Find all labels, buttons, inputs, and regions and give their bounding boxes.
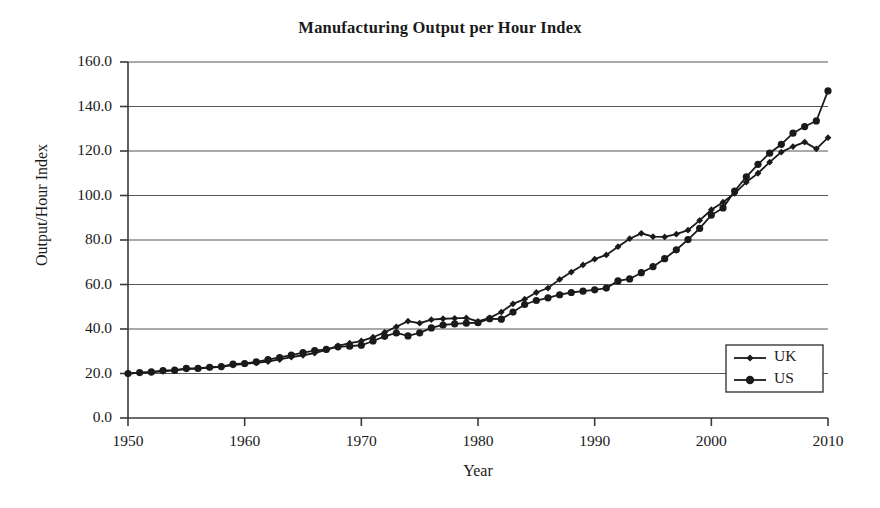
x-tick-label: 2000: [676, 432, 746, 450]
legend-label-uk: UK: [774, 347, 796, 365]
data-point-us: [124, 370, 131, 377]
data-point-us: [416, 329, 423, 336]
data-point-us: [824, 87, 831, 94]
data-point-us: [206, 364, 213, 371]
data-point-us: [521, 301, 528, 308]
data-point-us: [404, 332, 411, 339]
data-point-us: [556, 291, 563, 298]
data-point-us: [498, 316, 505, 323]
x-tick-label: 1990: [560, 432, 630, 450]
y-tick-label: 100.0: [50, 186, 112, 204]
y-tick-label: 140.0: [50, 97, 112, 115]
data-point-us: [614, 277, 621, 284]
data-point-us: [579, 288, 586, 295]
data-point-us: [789, 130, 796, 137]
data-point-us: [229, 361, 236, 368]
data-point-us: [463, 320, 470, 327]
data-point-us: [428, 324, 435, 331]
data-point-us: [241, 360, 248, 367]
data-point-us: [136, 369, 143, 376]
data-point-us: [194, 365, 201, 372]
data-point-us: [638, 269, 645, 276]
data-point-us: [696, 225, 703, 232]
data-point-us: [486, 315, 493, 322]
data-point-uk: [428, 316, 435, 323]
data-point-us: [171, 367, 178, 374]
data-point-uk: [661, 233, 668, 240]
data-point-uk: [405, 318, 412, 325]
data-point-uk: [591, 256, 598, 263]
data-point-us: [743, 173, 750, 180]
data-point-us: [253, 358, 260, 365]
x-tick-label: 2010: [793, 432, 863, 450]
x-tick-label: 1980: [443, 432, 513, 450]
data-point-us: [661, 255, 668, 262]
data-point-us: [533, 297, 540, 304]
data-point-us: [801, 123, 808, 130]
data-point-us: [299, 349, 306, 356]
data-point-us: [626, 275, 633, 282]
y-tick-label: 40.0: [50, 319, 112, 337]
data-point-us: [288, 351, 295, 358]
data-point-us: [358, 342, 365, 349]
data-point-uk: [440, 315, 447, 322]
data-point-us: [381, 333, 388, 340]
data-point-us: [813, 117, 820, 124]
data-point-us: [264, 356, 271, 363]
data-point-us: [731, 187, 738, 194]
data-point-us: [673, 246, 680, 253]
y-tick-label: 20.0: [50, 364, 112, 382]
data-point-us: [544, 294, 551, 301]
data-point-us: [719, 204, 726, 211]
data-point-us: [649, 263, 656, 270]
y-tick-label: 120.0: [50, 141, 112, 159]
data-point-us: [766, 150, 773, 157]
data-point-us: [159, 367, 166, 374]
y-tick-label: 160.0: [50, 52, 112, 70]
gridlines: [128, 62, 828, 374]
data-point-us: [183, 365, 190, 372]
data-point-uk: [416, 320, 423, 327]
data-point-us: [708, 211, 715, 218]
data-point-us: [603, 284, 610, 291]
data-point-us: [148, 368, 155, 375]
x-tick-label: 1950: [93, 432, 163, 450]
y-axis-ticks: [120, 62, 128, 418]
series-line-us: [128, 91, 828, 374]
series-line-uk: [128, 138, 828, 374]
data-point-us: [276, 354, 283, 361]
data-point-us: [393, 329, 400, 336]
data-series-layer: [124, 87, 831, 377]
data-point-us: [474, 319, 481, 326]
data-point-uk: [638, 230, 645, 237]
x-tick-label: 1960: [210, 432, 280, 450]
data-point-us: [684, 236, 691, 243]
data-point-us: [323, 346, 330, 353]
data-point-us: [778, 141, 785, 148]
data-point-uk: [673, 231, 680, 238]
x-tick-label: 1970: [326, 432, 396, 450]
data-point-us: [451, 320, 458, 327]
legend-label-us: US: [774, 369, 794, 387]
data-point-us: [218, 363, 225, 370]
data-point-us: [509, 308, 516, 315]
data-point-uk: [650, 233, 657, 240]
data-point-us: [369, 337, 376, 344]
data-point-us: [334, 343, 341, 350]
data-point-us: [591, 286, 598, 293]
data-point-us: [346, 343, 353, 350]
data-point-us: [568, 289, 575, 296]
data-point-us: [439, 321, 446, 328]
data-point-us: [754, 161, 761, 168]
y-tick-label: 60.0: [50, 275, 112, 293]
data-point-uk: [790, 143, 797, 150]
legend-marker-us: [746, 376, 754, 384]
y-tick-label: 0.0: [50, 408, 112, 426]
chart-figure: Manufacturing Output per Hour Index Outp…: [0, 0, 880, 508]
x-axis-ticks: [128, 418, 828, 426]
data-point-us: [311, 347, 318, 354]
y-tick-label: 80.0: [50, 230, 112, 248]
